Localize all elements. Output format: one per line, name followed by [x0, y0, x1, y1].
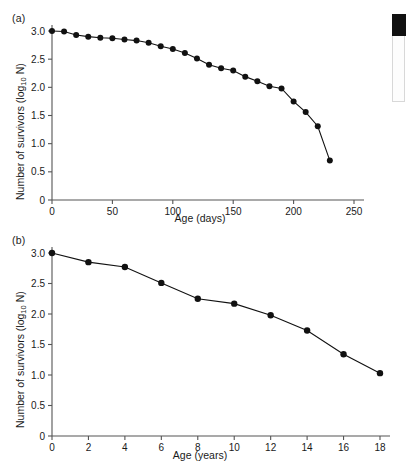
svg-text:2: 2	[86, 442, 92, 453]
svg-text:0: 0	[39, 431, 45, 442]
svg-text:1.0: 1.0	[31, 138, 45, 149]
panel-b-y-axis-title: Number of survivors (log10 N)	[14, 291, 28, 428]
svg-text:16: 16	[338, 442, 350, 453]
svg-text:18: 18	[374, 442, 386, 453]
svg-text:2.5: 2.5	[31, 54, 45, 65]
svg-text:0: 0	[39, 195, 45, 206]
svg-text:1.5: 1.5	[31, 110, 45, 121]
svg-text:1.5: 1.5	[31, 339, 45, 350]
svg-text:0: 0	[49, 442, 55, 453]
survivorship-figure: (a) 00.51.01.52.02.53.0050100150200250 N…	[0, 0, 409, 469]
svg-text:0.5: 0.5	[31, 166, 45, 177]
svg-text:14: 14	[302, 442, 314, 453]
svg-text:1.0: 1.0	[31, 370, 45, 381]
panel-b-plot: 00.51.01.52.02.53.0024681012141618	[0, 228, 409, 469]
panel-b-x-axis-title: Age (years)	[120, 449, 280, 461]
svg-text:50: 50	[107, 206, 119, 217]
svg-text:3.0: 3.0	[31, 248, 45, 259]
svg-text:2.0: 2.0	[31, 82, 45, 93]
svg-text:2.5: 2.5	[31, 278, 45, 289]
svg-text:200: 200	[285, 206, 302, 217]
svg-text:250: 250	[346, 206, 363, 217]
svg-text:2.0: 2.0	[31, 309, 45, 320]
panel-a-plot: 00.51.01.52.02.53.0050100150200250	[0, 0, 409, 232]
svg-text:0: 0	[49, 206, 55, 217]
svg-text:3.0: 3.0	[31, 26, 45, 37]
vertical-scrollbar-thumb[interactable]	[392, 14, 406, 36]
panel-b: (b) 00.51.01.52.02.53.0024681012141618 N…	[0, 228, 409, 469]
panel-a: (a) 00.51.01.52.02.53.0050100150200250 N…	[0, 0, 409, 232]
svg-text:0.5: 0.5	[31, 400, 45, 411]
panel-a-x-axis-title: Age (days)	[120, 212, 280, 224]
panel-a-y-axis-title: Number of survivors (log10 N)	[14, 63, 28, 200]
